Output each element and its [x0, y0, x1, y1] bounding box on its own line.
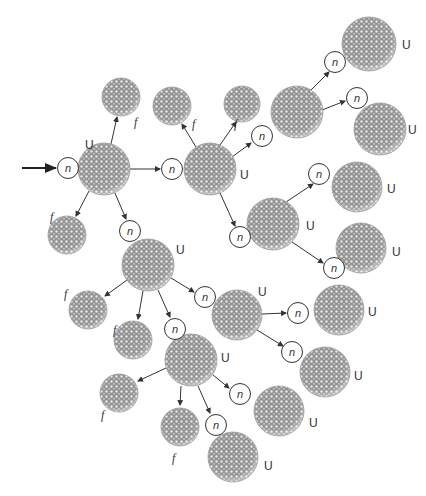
reaction-arrow: [115, 193, 126, 219]
neutron: n: [324, 258, 345, 279]
neutron: n: [206, 415, 227, 436]
neutron: n: [347, 88, 368, 109]
reaction-arrow: [262, 313, 286, 314]
uranium-label: U: [258, 285, 267, 299]
reaction-arrow: [213, 375, 229, 388]
neutron: n: [165, 319, 186, 340]
neutron: n: [58, 158, 79, 179]
reaction-arrow: [292, 242, 323, 263]
uranium-nucleus: [165, 334, 217, 386]
reaction-arrow: [138, 291, 143, 319]
reaction-arrow: [198, 386, 210, 413]
neutron-label: n: [202, 291, 208, 303]
chain-reaction-diagram: nnnnnnnnnnnnnnn UUUUUUUUUUUUUUffffffff: [0, 0, 426, 496]
reaction-arrow: [138, 368, 166, 381]
fission-fragment: [153, 87, 191, 125]
uranium-label: U: [306, 219, 315, 233]
uranium-nucleus: [300, 347, 350, 397]
fragment-label: f: [64, 287, 69, 301]
neutron: n: [309, 164, 330, 185]
neutron-label: n: [289, 346, 295, 358]
uranium-nucleus: [254, 386, 304, 436]
neutron-label: n: [172, 323, 178, 335]
reaction-arrow: [111, 117, 117, 144]
reaction-arrow: [322, 101, 345, 110]
neutron: n: [325, 52, 346, 73]
uranium-label: U: [176, 243, 185, 257]
neutron: n: [282, 342, 303, 363]
uranium-label: U: [387, 182, 396, 196]
uranium-nucleus: [208, 432, 258, 482]
uranium-nucleus: [212, 290, 262, 340]
neutron-label: n: [331, 262, 337, 274]
neutron: n: [162, 159, 183, 180]
uranium-nucleus: [122, 239, 174, 291]
neutron-label: n: [259, 130, 265, 142]
uranium-label: U: [354, 369, 363, 383]
uranium-label: U: [392, 245, 401, 259]
reaction-arrow: [232, 143, 251, 157]
neutron-label: n: [354, 92, 360, 104]
reaction-arrow: [311, 72, 329, 90]
uranium-label: U: [309, 416, 318, 430]
uranium-nucleus: [314, 285, 364, 335]
fission-fragment: [114, 321, 152, 359]
uranium-label: U: [85, 138, 94, 152]
neutron-label: n: [332, 56, 338, 68]
neutron: n: [230, 227, 251, 248]
fission-fragment: [224, 86, 260, 122]
uranium-label: U: [264, 459, 273, 473]
reaction-arrow: [171, 278, 194, 292]
neutron: n: [252, 126, 273, 147]
reaction-arrow: [76, 191, 89, 216]
fission-fragment: [102, 78, 140, 116]
fragment-label: f: [172, 451, 177, 465]
fission-fragment: [48, 216, 86, 254]
neutron: n: [120, 221, 141, 242]
neutron-label: n: [213, 419, 219, 431]
reaction-arrow: [286, 184, 313, 202]
uranium-label: U: [240, 168, 249, 182]
neutron-label: n: [295, 307, 301, 319]
reaction-arrow: [180, 386, 181, 405]
fragment-label: f: [192, 117, 197, 131]
uranium-label: U: [368, 305, 377, 319]
neutron-label: n: [169, 163, 175, 175]
neutron-label: n: [65, 162, 71, 174]
uranium-label: U: [408, 123, 417, 137]
uranium-nucleus: [184, 143, 236, 195]
neutron: n: [195, 287, 216, 308]
neutron-label: n: [237, 231, 243, 243]
uranium-nucleus: [247, 198, 299, 250]
neutron-label: n: [127, 225, 133, 237]
fission-fragment: [69, 291, 107, 329]
uranium-nucleus: [354, 103, 406, 155]
neutron: n: [230, 384, 251, 405]
fragment-label: f: [134, 115, 139, 129]
fission-fragment: [161, 408, 199, 446]
neutron-label: n: [316, 168, 322, 180]
fission-fragment: [100, 374, 138, 412]
reaction-arrow: [257, 330, 283, 346]
reaction-arrow: [158, 290, 170, 317]
fragment-label: f: [101, 408, 106, 422]
neutron-label: n: [237, 388, 243, 400]
reaction-arrow: [105, 280, 127, 296]
reaction-arrow: [220, 193, 235, 226]
uranium-label: U: [402, 38, 411, 52]
uranium-label: U: [221, 351, 230, 365]
uranium-nucleus: [271, 86, 323, 138]
uranium-nucleus: [342, 17, 396, 71]
neutron: n: [288, 303, 309, 324]
uranium-nucleus: [332, 162, 382, 212]
